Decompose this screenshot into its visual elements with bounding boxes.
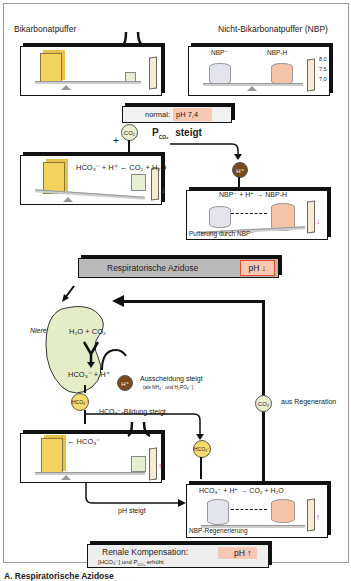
non-bicarbonate-buffer-title: Nicht-Bikarbonatpuffer (NBP) (218, 24, 328, 34)
ph-scale-icon (307, 200, 315, 233)
nbp-reaction: NBP⁻ + H⁺ → NBP-H (219, 191, 287, 199)
nbp-cylinder (207, 499, 229, 525)
fulcrum-icon (63, 197, 73, 202)
balance-beam (35, 472, 145, 475)
nbp-h-label: NBP-H (267, 49, 287, 56)
ph-up-arrow-icon: ↑ (316, 513, 320, 522)
normal-label: normal: (145, 110, 170, 119)
nbp-panel: NBP⁻ NBP-H (188, 46, 330, 96)
fulcrum-icon (61, 475, 71, 480)
bicarbonate-reaction: HCO₃⁻ + H⁺ ← CO₂ + H₂O (76, 163, 166, 172)
renal-compensation-box: Renale Kompensation: [HCO₃⁻] und PCO₂ er… (87, 544, 269, 568)
nbp-buffering-caption: Pufferung durch NBP⁻ (189, 230, 254, 238)
h-arrow (238, 177, 240, 189)
co2-block (131, 174, 146, 191)
balance-beam (35, 189, 145, 200)
nbp-regeneration-caption: NBP-Regenerierung (189, 527, 248, 534)
hco3-arrow (84, 385, 86, 393)
hco3-right-down-line (200, 457, 202, 479)
h-bubble: H⁺ (232, 162, 248, 178)
ph-scale-icon (149, 447, 157, 480)
nbp-h-cylinder (271, 63, 293, 85)
fulcrum-icon (247, 86, 257, 91)
respiratory-acidosis-box: Respiratorische Azidose pH ↓ (78, 258, 279, 278)
ph-down-arrow-icon: ↓ (316, 217, 320, 226)
nbp-cylinder (209, 63, 231, 85)
scale-tick-7-5: 7,5 (319, 66, 327, 72)
figure-caption: A. Respiratorische Azidose (4, 571, 114, 581)
arrow-to-kidney (60, 284, 80, 304)
compensation-ph: pH ↑ (218, 547, 257, 559)
compensation-sub: [HCO₃⁻] und PCO₂ erhöht (98, 558, 164, 567)
brace-icon (124, 420, 154, 440)
hco3-bubble: HCO₃⁻ (71, 393, 89, 411)
ph-scale-icon (151, 167, 159, 200)
hco3-incoming-label: ← HCO₃⁻ (67, 437, 100, 446)
nbp-buffering-panel: ↓ NBP⁻ + H⁺ → NBP-H Pufferung durch NBP⁻ (186, 190, 328, 240)
nbp-regeneration-panel: HCO₃⁻ + H⁺ → CO₂ + H₂O ↑ NBP-Regenerieru… (186, 484, 328, 538)
brace-icon (118, 30, 148, 50)
normal-ph-value: pH 7,4 (173, 108, 212, 121)
transfer-arrow (231, 213, 267, 214)
ph-scale-icon (307, 58, 315, 91)
transfer-arrow (231, 509, 267, 510)
bicarbonate-buffer-title: Bikarbonatpuffer (14, 24, 76, 34)
hco3-block (40, 53, 62, 83)
regeneration-top-line (122, 300, 264, 303)
ph-scale-icon (149, 56, 157, 89)
acidosis-ph: pH ↓ (240, 260, 275, 276)
regeneration-reaction: HCO₃⁻ + H⁺ → CO₂ + H₂O (199, 487, 284, 495)
regeneration-arrowhead (112, 294, 132, 308)
nbp-h-cylinder (271, 499, 295, 523)
nbp-label: NBP⁻ (211, 49, 228, 57)
pco2-rises-label: PCO₂ steigt (152, 127, 202, 140)
hco3-bubble-right: HCO₃⁻ (193, 440, 211, 458)
nbp-cylinder (209, 206, 231, 228)
bicarbonate-buffer-panel (20, 46, 162, 96)
kidney-label: Niere (30, 327, 47, 334)
co2-block (131, 456, 146, 472)
acidosis-label: Respiratorische Azidose (107, 263, 240, 273)
co2-bubble: CO₂ (121, 124, 138, 141)
arrow-to-h (170, 142, 250, 162)
regeneration-co2-bubble: CO₂ (255, 395, 272, 412)
ph-up-arrow-icon: ↑ (158, 462, 162, 471)
fulcrum-icon (61, 85, 71, 90)
ph-scale-icon (307, 498, 315, 531)
balance-beam (35, 81, 141, 84)
ph-rises-label: pH steigt (118, 507, 146, 514)
scale-tick-7: 7,0 (319, 76, 327, 82)
compensation-label: Renale Kompensation: (102, 547, 188, 557)
ph-down-arrow-icon: ↓ (161, 186, 165, 195)
regeneration-label: aus Regeneration (281, 398, 336, 405)
hco3-block (41, 438, 63, 474)
bicarbonate-restored-panel: ↑ ← HCO₃⁻ (20, 433, 162, 483)
scale-tick-8: 8,0 (319, 56, 327, 62)
plus-sign: + (113, 135, 119, 146)
normal-ph-box: normal: pH 7,4 (122, 106, 232, 123)
